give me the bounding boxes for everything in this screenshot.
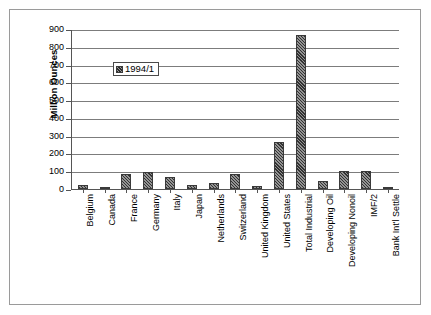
x-label-slot: Switzerland <box>224 192 246 292</box>
x-label-slot: Bank Int'l Settle <box>377 192 399 292</box>
bar-slot <box>94 30 116 189</box>
y-axis-tick-label: 300 <box>30 132 64 141</box>
bar-slot <box>181 30 203 189</box>
bar <box>121 174 131 189</box>
bar-slot <box>137 30 159 189</box>
plot-area <box>71 30 399 190</box>
legend-swatch-icon <box>116 66 123 73</box>
bar-slot <box>72 30 94 189</box>
bar-series-1994-1 <box>72 30 399 189</box>
bar <box>318 181 328 189</box>
bar <box>230 174 240 189</box>
bar <box>274 142 284 189</box>
x-label-slot: Total Industrial <box>290 192 312 292</box>
bar <box>143 172 153 189</box>
y-axis-tick-label: 500 <box>30 96 64 105</box>
x-label-slot: Canada <box>93 192 115 292</box>
x-label-slot: Italy <box>158 192 180 292</box>
y-axis-tick-label: 100 <box>30 167 64 176</box>
bar-slot <box>355 30 377 189</box>
y-axis-tick-mark <box>66 190 71 191</box>
y-axis-tick-label: 200 <box>30 149 64 158</box>
x-label-slot: Developing Nonoil <box>333 192 355 292</box>
bar-slot <box>203 30 225 189</box>
x-axis-category-labels: BelgiumCanadaFranceGermanyItalyJapanNeth… <box>71 192 399 292</box>
chart-figure: Million Ounces 0100200300400500600700800… <box>0 0 431 315</box>
y-axis-tick-label: 600 <box>30 78 64 87</box>
x-label-slot: Germany <box>137 192 159 292</box>
x-label-slot: United States <box>268 192 290 292</box>
bar-slot <box>377 30 399 189</box>
bar <box>165 177 175 189</box>
x-label-slot: Developing Oil <box>311 192 333 292</box>
bar-slot <box>312 30 334 189</box>
y-axis-tick-label: 0 <box>30 185 64 194</box>
bar-slot <box>225 30 247 189</box>
bar-slot <box>290 30 312 189</box>
x-label-slot: Japan <box>180 192 202 292</box>
x-label-slot: Netherlands <box>202 192 224 292</box>
bar <box>296 35 306 189</box>
y-axis-tick-label: 800 <box>30 43 64 52</box>
bar-slot <box>159 30 181 189</box>
y-axis-tick-label: 700 <box>30 61 64 70</box>
x-label-slot: Belgium <box>71 192 93 292</box>
chart-legend: 1994/1 <box>113 62 159 76</box>
bar-slot <box>334 30 356 189</box>
x-label-slot: IMF/2 <box>355 192 377 292</box>
y-axis-tick-label: 900 <box>30 25 64 34</box>
x-label-slot: France <box>115 192 137 292</box>
bar-slot <box>246 30 268 189</box>
bar <box>339 171 349 189</box>
bar-slot <box>116 30 138 189</box>
x-label-slot: United Kingdom <box>246 192 268 292</box>
y-axis-tick-label: 400 <box>30 114 64 123</box>
x-axis-category-label: Bank Int'l Settle <box>392 194 401 256</box>
bar-slot <box>268 30 290 189</box>
bar <box>361 171 371 189</box>
legend-entry-label: 1994/1 <box>125 64 154 74</box>
